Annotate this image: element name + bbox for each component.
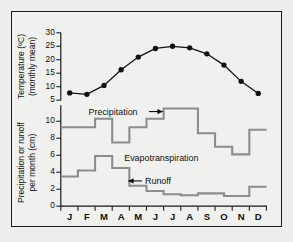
figure-panel: 30 25 20 15 10 5 Temperature (ºC) (month…	[11, 11, 282, 227]
precipitation-ticklabel-10: 10	[46, 115, 56, 125]
temperature-axis-title-line2: (monthly mean)	[27, 37, 37, 96]
precipitation-runoff-axis-group: 10 8 6 4 2 0 Precipitation or runoff per…	[16, 105, 267, 222]
xlabel-feb: F	[84, 211, 90, 222]
temperature-ticklabel-20: 20	[46, 54, 56, 64]
temperature-point-oct	[221, 62, 226, 67]
xlabel-jan: J	[67, 211, 72, 222]
precipitation-ticklabel-4: 4	[50, 166, 55, 176]
temperature-point-jul	[170, 44, 175, 49]
temperature-ticklabel-30: 30	[46, 27, 56, 37]
arrow-right-icon	[149, 109, 163, 114]
xlabel-dec: D	[255, 211, 262, 222]
temperature-axis-group: 30 25 20 15 10 5 Temperature (ºC) (month…	[16, 27, 261, 104]
precipitation-axis-title-line2: per month (cm)	[27, 134, 37, 192]
temperature-point-may	[136, 54, 141, 59]
temperature-point-dec	[256, 91, 261, 96]
temperature-point-jun	[153, 46, 158, 51]
precipitation-annotation-label: Precipitation	[89, 107, 138, 117]
xlabel-apr: A	[118, 211, 125, 222]
temperature-point-sep	[204, 51, 209, 56]
xlabel-nov: N	[238, 211, 245, 222]
evapotranspiration-annotation-label: Evapotranspiration	[124, 153, 198, 163]
precipitation-axis-title-line1: Precipitation or runoff	[16, 122, 26, 203]
precipitation-y-ticks	[56, 121, 60, 206]
temperature-ticklabel-5: 5	[50, 94, 55, 104]
climate-diagram-chart: 30 25 20 15 10 5 Temperature (ºC) (month…	[12, 12, 281, 226]
temperature-ticklabel-10: 10	[46, 81, 56, 91]
temperature-ticklabel-25: 25	[46, 40, 56, 50]
temperature-point-aug	[187, 45, 192, 50]
precipitation-ticklabel-8: 8	[50, 132, 55, 142]
temperature-axis-title-line1: Temperature (ºC)	[16, 34, 26, 99]
precipitation-ticklabel-2: 2	[50, 183, 55, 193]
precipitation-ticklabel-0: 0	[50, 200, 55, 210]
xlabel-sep: S	[204, 211, 210, 222]
x-axis-labels: J F M A M J J A S O N D	[67, 211, 262, 222]
temperature-series-line	[70, 46, 259, 94]
xlabel-mar: M	[100, 211, 108, 222]
temperature-point-jan	[67, 90, 72, 95]
temperature-point-apr	[118, 67, 123, 72]
xlabel-jun: J	[153, 211, 158, 222]
xlabel-oct: O	[220, 211, 227, 222]
xlabel-may: M	[134, 211, 142, 222]
xlabel-aug: A	[186, 211, 193, 222]
temperature-y-ticks	[56, 33, 60, 100]
temperature-ticklabel-15: 15	[46, 67, 56, 77]
xlabel-jul: J	[170, 211, 175, 222]
temperature-point-nov	[238, 79, 243, 84]
precipitation-ticklabel-6: 6	[50, 149, 55, 159]
runoff-annotation-label: Runoff	[145, 176, 172, 186]
temperature-point-feb	[84, 92, 89, 97]
x-axis-ticks	[61, 206, 267, 210]
temperature-point-mar	[101, 83, 106, 88]
precipitation-annotation: Precipitation	[89, 107, 163, 117]
